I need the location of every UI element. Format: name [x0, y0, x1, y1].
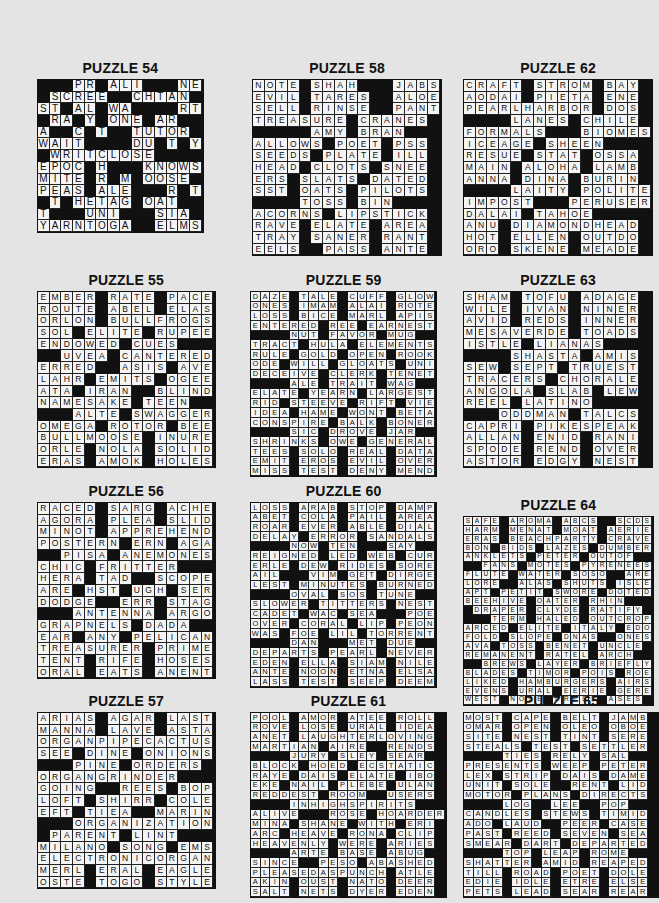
letter-cell: E	[319, 389, 329, 399]
black-square	[108, 174, 120, 186]
letter-cell: E	[50, 865, 62, 877]
letter-cell: T	[299, 466, 309, 476]
letter-cell: P	[522, 723, 532, 733]
letter-cell: S	[155, 444, 167, 456]
letter-cell: L	[319, 292, 329, 302]
black-square	[261, 639, 271, 649]
letter-cell: N	[558, 409, 570, 421]
letter-cell: O	[348, 590, 358, 600]
letter-cell: T	[406, 761, 416, 771]
letter-cell: H	[309, 800, 319, 810]
black-square	[202, 397, 214, 409]
letter-cell: B	[558, 103, 570, 115]
letter-cell: E	[338, 321, 348, 331]
letter-cell: H	[476, 292, 488, 304]
letter-cell: S	[483, 829, 493, 839]
black-square	[299, 810, 309, 820]
black-square	[639, 397, 651, 409]
letter-cell: A	[329, 742, 339, 752]
black-square	[499, 185, 511, 197]
letter-cell: E	[553, 642, 562, 651]
letter-cell: I	[571, 732, 581, 742]
black-square	[600, 771, 610, 781]
letter-cell: D	[387, 639, 397, 649]
letter-cell: L	[270, 350, 280, 360]
letter-cell: E	[143, 725, 155, 737]
letter-cell: O	[347, 138, 359, 150]
letter-cell: L	[580, 713, 590, 723]
letter-cell: E	[85, 327, 97, 339]
letter-cell: E	[607, 562, 616, 571]
letter-cell: T	[358, 503, 368, 513]
letter-cell: S	[464, 742, 474, 752]
letter-cell: P	[38, 538, 50, 550]
black-square	[108, 783, 120, 795]
letter-cell: I	[120, 795, 132, 807]
letter-cell: A	[491, 651, 500, 660]
letter-cell: E	[96, 865, 108, 877]
letter-cell: R	[387, 629, 397, 639]
letter-cell: N	[482, 544, 491, 553]
letter-cell: B	[387, 418, 397, 428]
letter-cell: I	[319, 571, 329, 581]
letter-cell: S	[534, 150, 546, 162]
letter-cell: I	[522, 220, 534, 232]
letter-cell: T	[580, 535, 589, 544]
letter-cell: A	[309, 590, 319, 600]
letter-cell: A	[527, 678, 536, 687]
letter-cell: T	[590, 713, 600, 723]
letter-cell: T	[581, 327, 593, 339]
puzzle-p55: PUZZLE 55EMBERRATEPACEROUTEABELELASORLON…	[37, 272, 216, 468]
black-square	[132, 386, 144, 398]
black-square	[358, 551, 368, 561]
black-square	[251, 639, 261, 649]
letter-cell: A	[536, 580, 545, 589]
letter-cell: I	[299, 418, 309, 428]
crossword-grid: ARIASAGARLASTMANNALAVEASTAORGANPIPECACTU…	[37, 712, 216, 889]
letter-cell: C	[464, 421, 476, 433]
letter-cell: S	[38, 748, 50, 760]
black-square	[155, 608, 167, 620]
letter-cell: A	[628, 150, 640, 162]
black-square	[464, 409, 476, 421]
black-square	[377, 331, 387, 341]
letter-cell: T	[487, 456, 499, 468]
letter-cell: S	[590, 771, 600, 781]
letter-cell: I	[347, 209, 359, 221]
letter-cell: L	[406, 668, 416, 678]
letter-cell: L	[487, 432, 499, 444]
black-square	[639, 386, 651, 398]
letter-cell: T	[377, 408, 387, 418]
black-square	[338, 713, 348, 723]
letter-cell: I	[483, 781, 493, 791]
letter-cell: K	[261, 878, 271, 888]
letter-cell: R	[590, 820, 600, 830]
letter-cell: E	[609, 761, 619, 771]
letter-cell: S	[202, 304, 214, 316]
letter-cell: Y	[319, 839, 329, 849]
letter-cell: A	[288, 115, 300, 127]
letter-cell: R	[358, 839, 368, 849]
letter-cell: F	[377, 399, 387, 409]
letter-cell: I	[406, 522, 416, 532]
letter-cell: D	[522, 409, 534, 421]
letter-cell: T	[85, 807, 97, 819]
letter-cell: F	[546, 292, 558, 304]
letter-cell: E	[270, 513, 280, 523]
letter-cell: H	[61, 374, 73, 386]
letter-cell: V	[473, 642, 482, 651]
letter-cell: T	[511, 80, 523, 92]
letter-cell: T	[493, 713, 503, 723]
letter-cell: S	[581, 421, 593, 433]
letter-cell: E	[38, 807, 50, 819]
black-square	[580, 849, 590, 859]
letter-cell: O	[319, 713, 329, 723]
black-square	[73, 748, 85, 760]
letter-cell: E	[551, 849, 561, 859]
letter-cell: A	[487, 103, 499, 115]
letter-cell: D	[329, 428, 339, 438]
letter-cell: T	[474, 742, 484, 752]
letter-cell: P	[167, 292, 179, 304]
letter-cell: T	[503, 849, 513, 859]
black-square	[50, 80, 62, 92]
